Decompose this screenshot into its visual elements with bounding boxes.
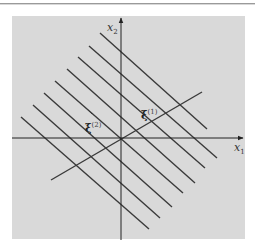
diagram-canvas: x2 x1 ξ(1) ξ(2) — [0, 0, 255, 250]
plot-panel — [12, 16, 245, 239]
